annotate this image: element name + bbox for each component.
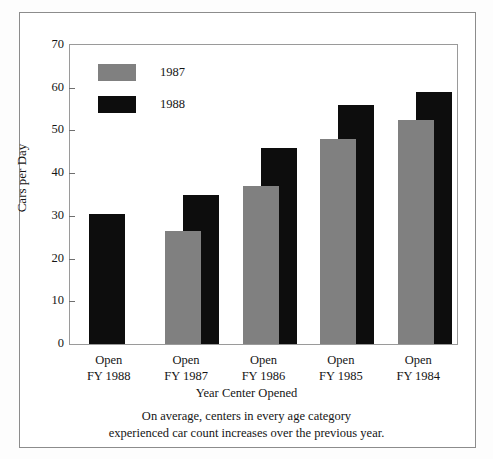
x-axis-tick-label: OpenFY 1988 [70,352,147,384]
caption-line-1: On average, centers in every age categor… [0,408,493,425]
bar-group [147,45,224,344]
x-axis-title: Year Center Opened [0,386,493,401]
legend-label-1988: 1988 [160,97,185,112]
y-axis-tick-label: 40 [36,166,64,179]
y-axis-tick-label: 70 [36,38,64,51]
bars-layer [70,45,457,344]
bar-group [70,45,147,344]
figure-caption: On average, centers in every age categor… [0,408,493,441]
bar-1987 [243,186,279,344]
x-axis-tick-labels: OpenFY 1988OpenFY 1987OpenFY 1986OpenFY … [70,352,459,386]
y-axis-title: Cars per Day [14,108,30,248]
x-tick-line-1: Open [173,353,200,367]
x-tick-line-2: FY 1984 [380,368,457,384]
bar-group [302,45,379,344]
bar-chart-figure: 010203040506070 Cars per Day 1987 1988 O… [0,0,493,459]
y-axis-tick-label: 60 [36,81,64,94]
y-axis-tick-label: 30 [36,209,64,222]
x-tick-line-2: FY 1986 [225,368,302,384]
x-tick-line-2: FY 1987 [147,368,224,384]
x-axis-tick-label: OpenFY 1987 [147,352,224,384]
x-tick-line-1: Open [405,353,432,367]
y-axis-tick-label: 20 [36,252,64,265]
x-axis-tick-label: OpenFY 1985 [302,352,379,384]
bar-1987 [398,120,434,344]
x-axis-tick-label: OpenFY 1986 [225,352,302,384]
bar-1987 [165,231,201,344]
bar-1988 [89,214,125,344]
caption-line-2: experienced car count increases over the… [0,425,493,442]
y-axis-tick-label: 0 [36,337,64,350]
x-tick-line-2: FY 1985 [302,368,379,384]
x-tick-line-1: Open [327,353,354,367]
y-axis-tick-label: 50 [36,123,64,136]
bar-1987 [320,139,356,344]
y-axis-tick-label: 10 [36,294,64,307]
figure-page: 010203040506070 Cars per Day 1987 1988 O… [0,0,493,459]
legend-swatch-1987 [98,64,136,81]
bar-group [380,45,457,344]
x-tick-line-1: Open [250,353,277,367]
x-axis-tick-label: OpenFY 1984 [380,352,457,384]
x-tick-line-1: Open [95,353,122,367]
x-tick-line-2: FY 1988 [70,368,147,384]
bar-group [225,45,302,344]
legend-swatch-1988 [98,96,136,113]
legend-label-1987: 1987 [160,65,185,80]
